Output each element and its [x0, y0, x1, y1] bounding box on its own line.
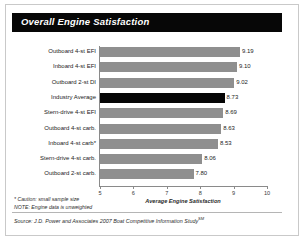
bar-category-label: Outboard 4-st EFI: [12, 48, 96, 54]
bar-row: Outboard 4-st EFI9.19: [12, 45, 282, 60]
bar: [100, 78, 234, 88]
footnote-note: NOTE: Engine data is unweighted: [14, 204, 204, 212]
bar-value-label: 8.53: [220, 140, 232, 146]
x-tick: [200, 186, 201, 189]
bar-value-label: 8.06: [204, 155, 216, 161]
bar-value-label: 7.80: [196, 170, 208, 176]
bar-row: Stern-drive 4-st EFI8.69: [12, 106, 282, 121]
bar: [100, 62, 237, 72]
bar: [100, 139, 218, 149]
x-tick-label: 9: [232, 190, 235, 196]
source-divider: [12, 212, 282, 213]
bar-row: Outboard 2-st DI9.02: [12, 76, 282, 91]
bar-category-label: Inboard 4-st EFI: [12, 63, 96, 69]
bar-row: Inboard 4-st EFI9.10: [12, 60, 282, 75]
footnotes: * Caution: small sample size NOTE: Engin…: [14, 196, 204, 211]
x-axis-line: [99, 186, 267, 187]
bar-row: Inboard 4-st carb*8.53: [12, 137, 282, 152]
service-mark: SM: [198, 216, 204, 221]
x-tick: [234, 186, 235, 189]
chart-title-bar: Overall Engine Satisfaction: [12, 13, 282, 32]
bar-category-label: Industry Average: [12, 94, 96, 100]
x-tick: [267, 186, 268, 189]
bar: [100, 154, 202, 164]
bar-industry-average: [100, 93, 225, 103]
x-tick-label: 10: [264, 190, 270, 196]
bar-row: Outboard 2-st carb.7.80: [12, 167, 282, 182]
bar-value-label: 8.73: [227, 94, 239, 100]
bar-category-label: Inboard 4-st carb*: [12, 140, 96, 146]
bar: [100, 169, 194, 179]
bar-value-label: 8.63: [223, 125, 235, 131]
source-line: Source: J.D. Power and Associates 2007 B…: [14, 216, 204, 224]
page-title: Overall Engine Satisfaction: [21, 16, 149, 27]
bar-value-label: 9.02: [236, 79, 248, 85]
x-tick: [133, 186, 134, 189]
bar-category-label: Stern-drive 4-st EFI: [12, 109, 96, 115]
bar-value-label: 9.10: [239, 63, 251, 69]
source-text: Source: J.D. Power and Associates 2007 B…: [14, 218, 198, 224]
x-tick: [167, 186, 168, 189]
bar: [100, 47, 240, 57]
bar-row: Outboard 4-st carb.8.63: [12, 122, 282, 137]
bar-chart-plot-area: Outboard 4-st EFI9.19Inboard 4-st EFI9.1…: [12, 44, 282, 189]
chart-page: Overall Engine Satisfaction Outboard 4-s…: [0, 0, 304, 241]
bar-row: Stern-drive 4-st carb.8.06: [12, 152, 282, 167]
bar-category-label: Outboard 2-st DI: [12, 79, 96, 85]
bar: [100, 124, 221, 134]
x-tick: [100, 186, 101, 189]
bar-category-label: Outboard 4-st carb.: [12, 125, 96, 131]
bar-category-label: Outboard 2-st carb.: [12, 170, 96, 176]
footnote-caution: * Caution: small sample size: [14, 196, 204, 204]
bar-row: Industry Average8.73: [12, 91, 282, 106]
bar-value-label: 8.69: [225, 109, 237, 115]
bar: [100, 108, 223, 118]
bar-value-label: 9.19: [242, 48, 254, 54]
bar-category-label: Stern-drive 4-st carb.: [12, 155, 96, 161]
